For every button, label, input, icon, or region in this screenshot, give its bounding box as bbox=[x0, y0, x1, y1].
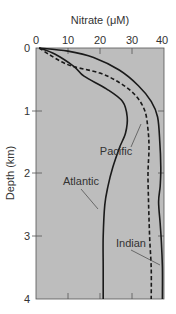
y-tick-2: 2 bbox=[24, 167, 30, 179]
x-tick-0: 0 bbox=[33, 34, 39, 46]
label-atlantic: Atlantic bbox=[63, 175, 100, 187]
x-tick-30: 30 bbox=[126, 34, 138, 46]
label-indian: Indian bbox=[116, 237, 146, 249]
x-tick-20: 20 bbox=[94, 34, 106, 46]
y-tick-3: 3 bbox=[24, 230, 30, 242]
x-axis-label: Nitrate (μM) bbox=[71, 14, 129, 26]
x-tick-labels: 0 10 20 30 40 bbox=[33, 34, 168, 46]
y-tick-0: 0 bbox=[24, 42, 30, 54]
x-tick-10: 10 bbox=[62, 34, 74, 46]
y-axis-label: Depth (km) bbox=[4, 146, 16, 200]
x-tick-40: 40 bbox=[156, 34, 168, 46]
y-tick-4: 4 bbox=[24, 293, 30, 305]
y-tick-1: 1 bbox=[24, 105, 30, 117]
nitrate-depth-chart: Nitrate (μM) 0 10 20 30 40 Depth (km) 0 … bbox=[0, 0, 176, 314]
y-tick-labels: 0 1 2 3 4 bbox=[24, 42, 30, 305]
label-pacific: Pacific bbox=[100, 145, 133, 157]
